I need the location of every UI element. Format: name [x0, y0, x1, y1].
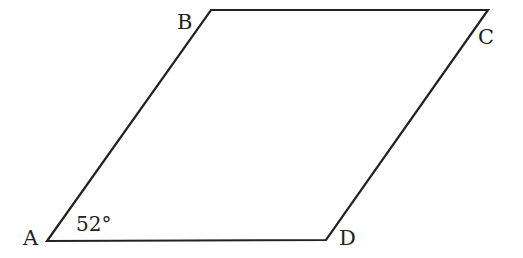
- vertex-label-a: A: [22, 226, 39, 250]
- vertex-label-c: C: [478, 25, 494, 49]
- vertex-label-d: D: [339, 226, 356, 250]
- parallelogram-diagram: A B C D 52°: [0, 0, 523, 258]
- angle-label-a: 52°: [76, 212, 111, 236]
- vertex-label-b: B: [177, 10, 192, 34]
- parallelogram-abcd: [47, 10, 488, 241]
